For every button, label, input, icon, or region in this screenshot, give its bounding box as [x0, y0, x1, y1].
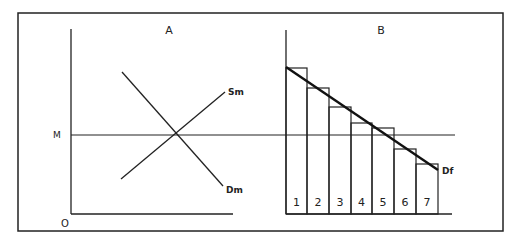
price-label-m: M	[53, 130, 61, 140]
demand-label-df: Df	[442, 166, 453, 176]
demand-label-dm: Dm	[226, 185, 243, 195]
bar-1	[286, 68, 307, 214]
origin-label: O	[61, 218, 69, 229]
bar-label-5: 5	[380, 196, 387, 209]
bar-label-3: 3	[337, 196, 344, 209]
demand-curve-dm	[122, 72, 223, 186]
bar-label-6: 6	[402, 196, 409, 209]
demand-curve-df	[286, 67, 438, 170]
bar-label-7: 7	[424, 196, 431, 209]
panel-b-title: B	[377, 24, 385, 37]
bar-label-4: 4	[358, 196, 365, 209]
bar-label-2: 2	[315, 196, 322, 209]
bar-label-1: 1	[293, 196, 300, 209]
diagram-canvas: A B M O Sm Dm Df 1 2 3 4 5 6 7	[0, 0, 523, 242]
supply-label-sm: Sm	[228, 87, 244, 97]
panel-a	[71, 29, 233, 214]
panel-b	[286, 30, 452, 214]
panel-a-title: A	[165, 24, 173, 37]
